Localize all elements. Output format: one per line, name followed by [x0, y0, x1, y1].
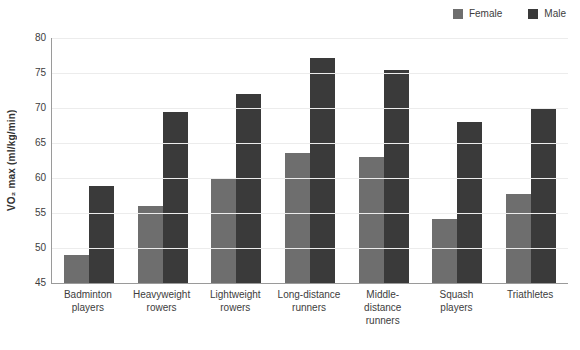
bar-group [199, 38, 273, 283]
bar-group [494, 38, 568, 283]
x-tick-label: Triathletes [493, 288, 567, 327]
x-tick-label: Long-distancerunners [272, 288, 346, 327]
y-axis-ticks: 8075706560555045 [20, 38, 46, 283]
bar-male[interactable] [384, 70, 409, 283]
y-tick-label: 55 [20, 208, 46, 218]
x-tick-label: Badmintonplayers [51, 288, 125, 327]
x-tick-label: Lightweightrowers [198, 288, 272, 327]
x-axis-labels: BadmintonplayersHeavyweightrowersLightwe… [51, 288, 567, 327]
bar-female[interactable] [359, 157, 384, 283]
bar-group [273, 38, 347, 283]
bar-groups [52, 38, 568, 283]
gridline [52, 108, 568, 109]
bar-female[interactable] [506, 194, 531, 283]
gridline [52, 248, 568, 249]
bar-group [52, 38, 126, 283]
bar-female[interactable] [285, 153, 310, 283]
bar-female[interactable] [138, 206, 163, 283]
gridline [52, 143, 568, 144]
gridline [52, 38, 568, 39]
bar-female[interactable] [432, 219, 457, 283]
bar-male[interactable] [310, 58, 335, 283]
y-axis-title: VO₂ max (ml/kg/min) [4, 38, 18, 283]
y-tick-label: 65 [20, 138, 46, 148]
gridline [52, 73, 568, 74]
x-tick-label: Squashplayers [420, 288, 494, 327]
bar-group [126, 38, 200, 283]
bar-male[interactable] [457, 122, 482, 283]
y-tick-label: 60 [20, 173, 46, 183]
y-tick-label: 75 [20, 68, 46, 78]
bar-male[interactable] [89, 186, 114, 283]
bar-female[interactable] [64, 255, 89, 283]
bar-male[interactable] [236, 94, 261, 283]
gridline [52, 178, 568, 179]
bar-group [347, 38, 421, 283]
plot-wrapper: VO₂ max (ml/kg/min) 8075706560555045 Bad… [0, 0, 580, 350]
bar-male[interactable] [163, 112, 188, 284]
y-tick-label: 45 [20, 278, 46, 288]
x-tick-label: Heavyweightrowers [125, 288, 199, 327]
y-tick-label: 70 [20, 103, 46, 113]
bar-group [421, 38, 495, 283]
plot-area [51, 38, 568, 284]
gridline [52, 213, 568, 214]
bar-female[interactable] [211, 178, 236, 283]
y-tick-label: 80 [20, 33, 46, 43]
bar-male[interactable] [531, 109, 556, 283]
vo2max-bar-chart: Female Male VO₂ max (ml/kg/min) 80757065… [0, 0, 580, 350]
y-tick-label: 50 [20, 243, 46, 253]
x-tick-label: Middle-distancerunners [346, 288, 420, 327]
